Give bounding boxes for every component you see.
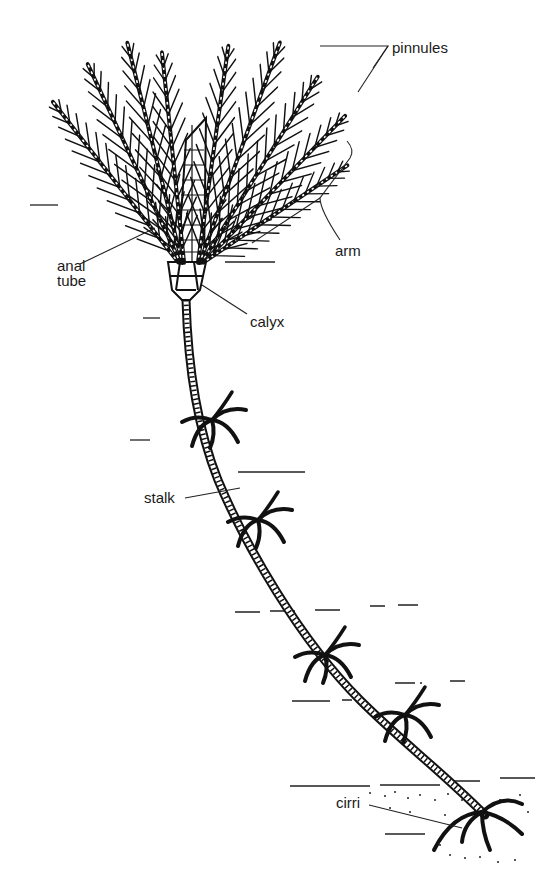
label-pinnules: pinnules bbox=[392, 40, 448, 55]
calyx bbox=[168, 262, 206, 300]
label-stalk: stalk bbox=[144, 490, 175, 505]
water-lines bbox=[30, 205, 535, 834]
label-calyx: calyx bbox=[250, 314, 284, 329]
label-cirri: cirri bbox=[336, 795, 360, 810]
crinoid-diagram bbox=[0, 0, 560, 893]
label-arm: arm bbox=[335, 243, 361, 258]
label-anal-tube: anal tube bbox=[57, 258, 86, 288]
stalk bbox=[186, 300, 485, 815]
